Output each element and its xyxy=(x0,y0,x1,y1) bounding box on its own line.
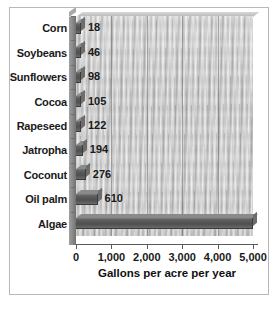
bar-top-face xyxy=(76,214,258,218)
bar xyxy=(76,169,86,180)
x-axis-tick-label: 3,000 xyxy=(168,251,196,263)
category-label: Algae xyxy=(38,217,67,231)
category-label: Jatropha xyxy=(22,143,67,157)
category-label: Rapeseed xyxy=(17,119,67,133)
x-axis-tick xyxy=(218,245,219,249)
category-label: Soybeans xyxy=(17,46,67,60)
category-label: Oil palm xyxy=(25,192,67,206)
category-tick xyxy=(71,212,76,213)
bar-value-label: 98 xyxy=(88,70,100,83)
x-axis-tick xyxy=(147,245,148,249)
category-axis: CornSoybeansSunflowersCocoaRapeseedJatro… xyxy=(10,16,69,240)
category-tick xyxy=(71,89,76,90)
x-axis-tick xyxy=(111,245,112,249)
category-tick xyxy=(71,114,76,115)
bar-value-label: 46 xyxy=(88,46,100,59)
category-tick xyxy=(71,163,76,164)
gridline xyxy=(147,16,148,236)
bar xyxy=(76,194,98,205)
bar xyxy=(76,218,253,229)
gridline xyxy=(218,16,219,236)
bar-value-label: 610 xyxy=(105,192,123,205)
x-axis-title: Gallons per acre per year xyxy=(76,267,258,279)
x-axis-tick xyxy=(76,245,77,249)
gridline xyxy=(182,16,183,236)
category-label: Sunflowers xyxy=(10,70,67,84)
x-axis-tick-label: 4,000 xyxy=(204,251,232,263)
x-axis-line xyxy=(76,244,258,245)
bar-value-label: 194 xyxy=(90,143,108,156)
x-axis-tick-label: 0 xyxy=(73,251,79,263)
category-label: Cocoa xyxy=(34,95,67,109)
bar-value-label: 122 xyxy=(88,119,106,132)
x-axis-tick xyxy=(182,245,183,249)
chart-frame: CornSoybeansSunflowersCocoaRapeseedJatro… xyxy=(9,7,269,295)
x-axis-tick xyxy=(253,245,254,249)
bar-value-label: 276 xyxy=(93,168,111,181)
category-tick xyxy=(71,40,76,41)
bar-chart: CornSoybeansSunflowersCocoaRapeseedJatro… xyxy=(10,8,268,294)
bar xyxy=(76,145,83,156)
x-axis-tick-label: 5,000 xyxy=(239,251,267,263)
category-label: Corn xyxy=(42,21,67,35)
x-axis-tick-label: 2,000 xyxy=(133,251,161,263)
category-tick xyxy=(71,187,76,188)
bar-value-label: 105 xyxy=(88,95,106,108)
bar-value-label: 18 xyxy=(88,21,100,34)
category-tick xyxy=(71,138,76,139)
category-tick xyxy=(71,65,76,66)
x-axis-tick-label: 1,000 xyxy=(98,251,126,263)
bar-side-face xyxy=(253,212,257,226)
category-label: Coconut xyxy=(24,168,67,182)
category-tick xyxy=(71,16,76,17)
